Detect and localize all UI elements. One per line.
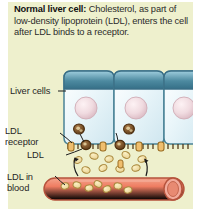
ldl-receptor-4: [115, 140, 125, 149]
label-liver-cells: Liver cells: [10, 86, 50, 97]
figure-caption: Normal liver cell: Cholesterol, as part …: [14, 4, 190, 39]
label-ldl-receptor: LDL receptor: [5, 126, 38, 147]
label-ldl-receptor-line2: receptor: [5, 137, 38, 147]
label-ldl-in-blood: LDL in blood: [7, 172, 33, 193]
label-ldl-receptor-line1: LDL: [5, 126, 22, 136]
liver-cell-3: [164, 71, 193, 144]
liver-cell-2: [114, 71, 164, 144]
label-ldl-in-blood-line1: LDL in: [7, 172, 33, 182]
label-ldl-in-blood-line2: blood: [7, 183, 29, 193]
ldl-uptake-figure: Normal liver cell: Cholesterol, as part …: [0, 0, 197, 215]
ldl-receptor-3: [100, 142, 106, 151]
liver-cell-group: [64, 71, 193, 149]
blood-vessel: [44, 178, 184, 200]
label-ldl: LDL: [27, 150, 44, 161]
caption-lead: Normal liver cell:: [14, 4, 86, 14]
ldl-receptor-6: [158, 142, 164, 151]
ldl-receptor-1: [68, 142, 74, 151]
free-ldl-particles: [73, 150, 147, 174]
liver-cell-1: [64, 71, 114, 144]
ldl-receptor-2: [81, 140, 91, 149]
ldl-receptor-5: [136, 142, 142, 151]
